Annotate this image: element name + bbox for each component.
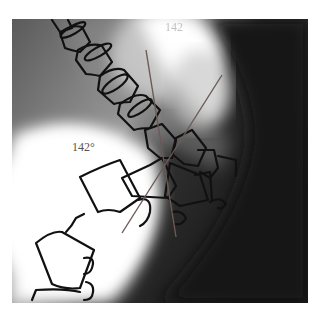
angle-label-faded: 142 [165,20,183,35]
angle-label: 142° [72,140,95,155]
xray-image [12,19,308,303]
